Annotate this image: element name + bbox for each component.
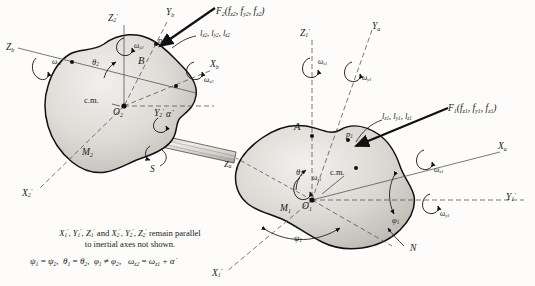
point-label-p2: p2 (158, 36, 165, 46)
axis-label-Y1-prime: Y1′ (506, 192, 516, 203)
node-label-N: N (410, 244, 416, 254)
cm-label-left: c.m. (84, 96, 99, 105)
angle-label-theta1: θ1 (296, 168, 303, 178)
rate-label-omega-z1: ωz1 (318, 58, 327, 67)
angle-label-psi1: ψ1 (294, 234, 302, 244)
mass-label-M1: M1 (280, 204, 291, 215)
body-label-A: A (294, 122, 300, 133)
moment-label-l2: lz2, ly2, lz2 (200, 29, 230, 39)
axis-label-Zb: Zb (6, 43, 14, 54)
body-B-shape (45, 35, 196, 173)
shaft-label-leader (160, 150, 166, 166)
rate-label-omega-y2: ωy2 (134, 42, 144, 51)
point-label-p1: p1 (346, 130, 353, 140)
rate-label-omega-z2: ωz2 (52, 58, 61, 67)
curl-omega-z2 (32, 58, 48, 80)
origin-label-O1: O1 (302, 202, 312, 213)
shaft-rate-label-alpha-dot: α̇ (166, 110, 171, 120)
curl-omega-x1 (417, 150, 433, 170)
rate-label-omega-x1: ωx1 (434, 166, 444, 175)
axis-label-Xa: Xa (498, 142, 507, 153)
axis-label-Z2-prime: Z2′ (108, 13, 118, 24)
angle-label-phi1: φ1 (392, 216, 399, 226)
force-label-F2: F2(fz2, fy2, fz2) (216, 7, 265, 18)
axis-label-X1-prime: X1′ (212, 268, 222, 279)
curl-omega-y1b (423, 194, 439, 214)
rate-label-omega-y1b: ωy1 (440, 210, 450, 219)
angle-label-theta2: θ2 (92, 58, 99, 68)
cm-label-right: c.m. (330, 168, 345, 177)
rate-label-omega-x2: ωx2 (204, 76, 214, 85)
mass-label-M2: M2 (82, 148, 93, 159)
curl-omega-z1 (303, 58, 319, 78)
axis-label-Ya: Ya (372, 22, 380, 33)
origin-label-O2: O2 (113, 108, 123, 119)
curl-omega-y1 (345, 62, 361, 82)
axis-label-Xb: Xb (210, 60, 219, 71)
moment-label-l1: lz1, ly1, lz1 (382, 112, 412, 122)
axis-label-X2-prime: X2′ (22, 188, 32, 199)
axis-label-Z1-prime: Z1′ (300, 28, 310, 39)
body-label-B: B (138, 56, 144, 67)
rate-label-omega-x1-body: ωx1 (312, 174, 322, 183)
axis-label-Y2-prime: Y2′ (154, 108, 164, 119)
rate-label-omega-y1: ωy1 (362, 74, 372, 83)
moment-l2-leader (172, 36, 196, 48)
body-A-shape (236, 126, 415, 249)
axis-label-Za: Za (224, 160, 231, 170)
relations-equation: ψ1 = ψ2, θ1 = θ2, φ1 ≠ φ2, ωz2 = ωz1 + α… (30, 256, 174, 267)
caption-line-1: X1′, Y1′, Z1′ and X2′, Y2′, Z2′ remain p… (30, 227, 230, 251)
axis-label-Yb: Yb (166, 8, 174, 19)
force-label-F1: F1(fz1, fy1, fz1) (448, 104, 497, 115)
shaft-label-S: S (150, 165, 155, 175)
